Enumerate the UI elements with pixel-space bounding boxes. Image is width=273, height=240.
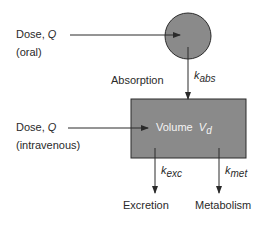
metabolism-rate-label: kmet [225, 164, 247, 180]
k-met-subscript: met [231, 168, 248, 179]
volume-text: Volume [156, 121, 193, 133]
oral-dose-text: Dose, [16, 28, 48, 40]
absorption-rate-label: kabs [194, 69, 216, 85]
excretion-rate-label: kexc [161, 164, 182, 180]
excretion-label: Excretion [123, 199, 169, 212]
volume-label: Volume Vd [156, 121, 212, 137]
k-exc-subscript: exc [167, 168, 183, 179]
vd-subscript: d [206, 125, 212, 136]
metabolism-label: Metabolism [195, 199, 251, 212]
oral-route-label: (oral) [16, 46, 42, 59]
absorption-label: Absorption [111, 74, 164, 87]
iv-dose-text: Dose, [16, 121, 48, 133]
oral-dose-q: Q [48, 28, 57, 40]
oral-dose-label: Dose, Q [16, 28, 56, 41]
k-abs-subscript: abs [200, 73, 216, 84]
iv-route-label: (intravenous) [16, 139, 80, 152]
iv-dose-q: Q [48, 121, 57, 133]
iv-dose-label: Dose, Q [16, 121, 56, 134]
